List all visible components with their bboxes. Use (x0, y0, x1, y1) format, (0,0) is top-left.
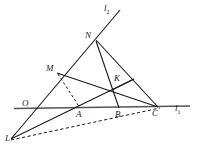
geometry-figure: L O M N A B C K l1 l2 (0, 0, 198, 149)
ray-l2 (11, 10, 120, 139)
line-label-l1: l1 (175, 104, 181, 117)
line-label-l2: l2 (104, 4, 110, 17)
point-label-M: M (46, 64, 54, 73)
point-label-L: L (5, 134, 10, 143)
point-label-O: O (22, 99, 29, 108)
point-label-B: B (115, 110, 121, 119)
point-label-N: N (85, 31, 91, 40)
point-label-C: C (152, 109, 158, 118)
point-label-K: K (114, 74, 120, 83)
line-label-l2-sub: 2 (107, 9, 110, 15)
line-l1 (14, 106, 190, 109)
line-label-l1-sub: 1 (178, 109, 181, 115)
point-label-A: A (76, 110, 82, 119)
geometry-canvas (0, 0, 198, 149)
